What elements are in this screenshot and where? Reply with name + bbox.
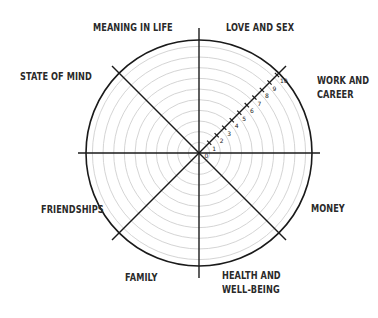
scale-tick-label: 5 [242,115,246,122]
scale-tick-label: 6 [250,107,254,114]
spokes [78,28,320,278]
scale-ticks: 012345678910 [205,73,288,159]
label-family: FAMILY [125,270,158,284]
scale-tick-label: 0 [205,152,209,159]
label-friendships: FRIENDSHIPS [41,202,104,216]
label-work-and-career: WORK AND CAREER [317,73,369,101]
scale-tick-label: 7 [257,100,261,107]
scale-tick-label: 4 [235,122,239,129]
label-state-of-mind: STATE OF MIND [20,69,92,83]
label-money: MONEY [311,201,345,215]
scale-tick-label: 1 [212,145,216,152]
scale-tick-label: 2 [220,137,224,144]
label-health-and-well-being: HEALTH AND WELL-BEING [222,268,281,296]
life-wheel-diagram: 012345678910 [0,0,378,318]
scale-tick-label: 8 [265,92,269,99]
scale-tick-label: 3 [227,130,231,137]
scale-tick-label: 9 [273,85,277,92]
scale-tick-label: 10 [280,77,288,84]
label-meaning-in-life: MEANING IN LIFE [93,20,173,34]
label-love-and-sex: LOVE AND SEX [226,20,294,34]
